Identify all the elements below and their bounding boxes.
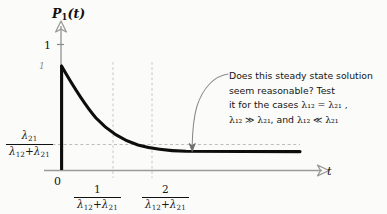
figure-container: P1(t) 1 1 t 0 λ21 λ12+λ21 1 λ12+λ21 2 λ1… bbox=[0, 0, 387, 214]
annotation-line-4: λ₁₂ ≫ λ₂₁, and λ₁₂ ≪ λ₂₁ bbox=[229, 113, 385, 128]
x-tick-label-0: 0 bbox=[54, 176, 61, 187]
y-axis-label-argument: (t) bbox=[68, 6, 86, 21]
annotation-line-4-math-b: λ₁₂ ≪ λ₂₁ bbox=[297, 114, 339, 125]
denominator-subscript-b: 21 bbox=[176, 203, 185, 212]
annotation-line-1: Does this steady state solution bbox=[229, 69, 385, 84]
x-tick-2-denominator: λ12+λ21 bbox=[142, 198, 189, 211]
steady-state-numerator: λ21 bbox=[6, 130, 53, 143]
t-axis-label: t bbox=[327, 166, 332, 178]
annotation-line-3-prefix: it for the cases bbox=[229, 99, 301, 110]
annotation-line-3-math: λ₁₂ = λ₂₁ , bbox=[301, 99, 347, 110]
denominator-plus: + bbox=[25, 145, 34, 157]
denominator-subscript-b: 21 bbox=[40, 150, 49, 159]
annotation-line-4-math-a: λ₁₂ ≫ λ₂₁ bbox=[229, 114, 271, 125]
denominator-lambda-a: λ bbox=[145, 198, 152, 210]
x-tick-2-numerator: 2 bbox=[142, 184, 189, 196]
denominator-subscript-b: 21 bbox=[108, 203, 117, 212]
denominator-lambda-a: λ bbox=[77, 198, 84, 210]
steady-state-value-label: λ21 λ12+λ21 bbox=[6, 130, 53, 159]
denominator-subscript-a: 12 bbox=[84, 203, 93, 212]
y-axis-label: P1(t) bbox=[52, 8, 85, 22]
steady-state-denominator: λ12+λ21 bbox=[6, 145, 53, 158]
annotation-text: Does this steady state solution seem rea… bbox=[229, 69, 385, 128]
denominator-plus: + bbox=[93, 198, 102, 210]
x-tick-1-numerator: 1 bbox=[74, 184, 121, 196]
annotation-line-4-mid: , and bbox=[271, 114, 297, 125]
denominator-plus: + bbox=[161, 198, 170, 210]
curve-origin-mark: 1 bbox=[39, 62, 45, 71]
denominator-subscript-a: 12 bbox=[16, 150, 25, 159]
annotation-line-3: it for the cases λ₁₂ = λ₂₁ , bbox=[229, 98, 385, 113]
annotation-leader-line bbox=[192, 74, 228, 146]
annotation-line-2: seem reasonable? Test bbox=[229, 84, 385, 99]
y-tick-label-1: 1 bbox=[44, 40, 51, 51]
numerator-subscript: 21 bbox=[28, 134, 37, 143]
x-tick-label-1: 1 λ12+λ21 bbox=[74, 184, 121, 211]
denominator-lambda-a: λ bbox=[9, 145, 16, 157]
denominator-subscript-a: 12 bbox=[152, 203, 161, 212]
x-tick-1-denominator: λ12+λ21 bbox=[74, 198, 121, 211]
x-tick-label-2: 2 λ12+λ21 bbox=[142, 184, 189, 211]
y-axis-label-symbol: P bbox=[52, 6, 61, 21]
